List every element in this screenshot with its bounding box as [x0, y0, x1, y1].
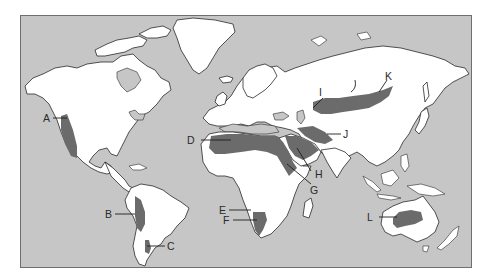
svg-text:H: H — [315, 168, 323, 180]
svg-text:B: B — [105, 208, 112, 220]
severnaya-zemlya — [357, 32, 371, 40]
svg-text:G: G — [310, 184, 318, 196]
new-zealand — [437, 226, 459, 250]
svg-text:J: J — [343, 128, 348, 140]
philippines — [401, 154, 409, 172]
arctic-islands — [95, 36, 147, 56]
central-america — [105, 162, 133, 192]
tasmania — [423, 246, 429, 252]
sumatra — [363, 176, 381, 192]
greenland — [173, 18, 235, 74]
java — [377, 194, 401, 200]
caribbean-islands — [129, 164, 147, 170]
borneo — [381, 170, 399, 186]
new-guinea — [407, 184, 445, 196]
svg-text:I: I — [319, 86, 322, 98]
south-america — [125, 184, 189, 266]
svg-text:A: A — [43, 112, 50, 124]
svg-text:K: K — [385, 70, 392, 82]
svg-text:C: C — [167, 240, 175, 252]
svg-text:D: D — [187, 134, 195, 146]
iceland — [219, 76, 233, 83]
arctic-islands-2 — [139, 26, 171, 38]
world-map-svg: A B C D E F G H I J K L — [21, 16, 472, 268]
world-map: A B C D E F G H I J K L — [20, 15, 472, 268]
novaya-zemlya — [311, 36, 327, 46]
svg-text:F: F — [223, 214, 229, 226]
british-isles — [215, 92, 227, 106]
svg-text:L: L — [367, 211, 373, 223]
madagascar — [303, 198, 313, 218]
